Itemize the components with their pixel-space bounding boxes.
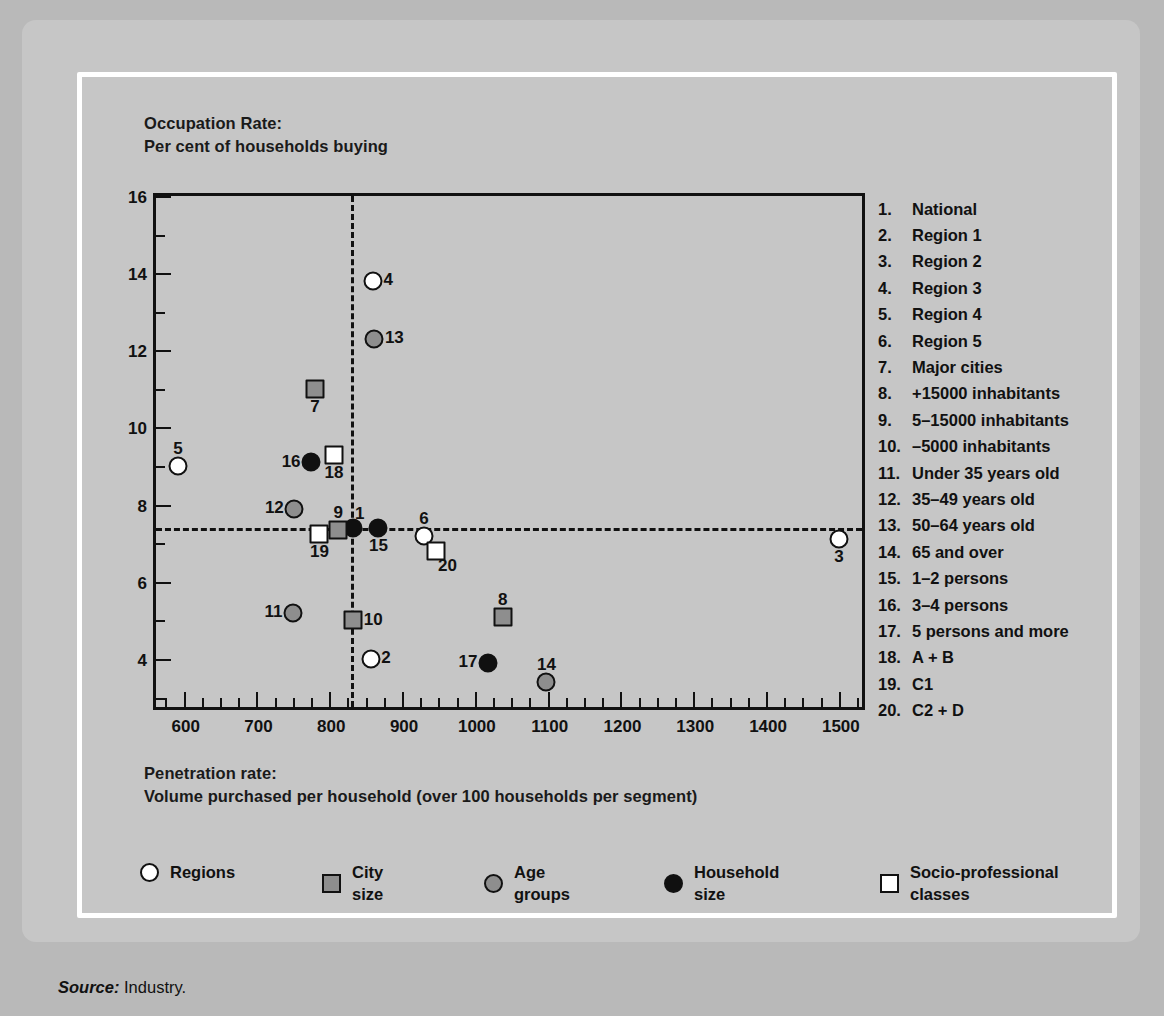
data-point-7[interactable]: 7 [305,379,324,398]
legend-item-city-size[interactable]: City size [322,862,383,906]
marker-circle-white [363,271,382,290]
key-list-item: 20.C2 + D [878,697,1069,723]
data-point-2[interactable]: 2 [361,649,380,668]
x-tick-minor [857,698,859,707]
key-item-label: 1–2 persons [912,569,1008,588]
x-tick-major: 800 [329,692,331,707]
data-point-5[interactable]: 5 [168,457,187,476]
x-tick-minor [311,698,313,707]
legend-item-household-size[interactable]: Household size [664,862,779,906]
x-tick-minor [730,698,732,707]
data-point-17[interactable]: 17 [478,653,497,672]
marker-circle-gray [537,673,556,692]
legend-label: Socio-professional classes [910,862,1059,906]
key-list-item: 5.Region 4 [878,302,1069,328]
data-point-16[interactable]: 16 [302,453,321,472]
series-legend: RegionsCity sizeAge groupsHousehold size… [140,848,1100,918]
legend-label: Age groups [514,862,570,906]
key-list-item: 6.Region 5 [878,328,1069,354]
y-tick-minor [156,466,165,468]
key-item-number: 11. [878,464,912,483]
marker-circle-black [302,453,321,472]
data-point-10[interactable]: 10 [344,611,363,630]
x-tick-minor [457,698,459,707]
key-item-number: 20. [878,701,912,720]
x-tick-minor [366,698,368,707]
x-tick-minor [220,698,222,707]
data-point-label: 19 [310,541,329,561]
y-tick-major: 8 [156,505,171,507]
x-tick-label: 800 [317,717,345,737]
x-tick-minor [584,698,586,707]
key-item-label: 5–15000 inhabitants [912,411,1069,430]
x-tick-major: 1000 [475,692,477,707]
data-point-label: 9 [333,502,342,522]
data-point-4[interactable]: 4 [363,271,382,290]
key-list-item: 9.5–15000 inhabitants [878,407,1069,433]
y-tick-minor [156,620,165,622]
key-list-item: 11.Under 35 years old [878,460,1069,486]
legend-item-socio-classes[interactable]: Socio-professional classes [880,862,1059,906]
x-tick-label: 1300 [676,717,714,737]
data-point-label: 14 [537,655,556,675]
data-point-8[interactable]: 8 [493,607,512,626]
x-tick-label: 1000 [458,717,496,737]
data-point-label: 1 [355,503,364,523]
x-tick-minor [566,698,568,707]
x-tick-major: 1400 [766,692,768,707]
x-tick-major: 900 [402,692,404,707]
key-item-number: 3. [878,252,912,271]
key-item-number: 1. [878,200,912,219]
marker-square-gray [344,611,363,630]
data-point-12[interactable]: 12 [285,499,304,518]
x-tick-minor [420,698,422,707]
y-tick-label: 4 [138,651,147,671]
x-tick-label: 1500 [822,717,860,737]
data-point-20[interactable]: 20 [426,541,445,560]
key-item-label: Region 2 [912,252,982,271]
marker-circle-gray [285,499,304,518]
x-tick-minor [748,698,750,707]
x-tick-minor [711,698,713,707]
x-tick-label: 1400 [749,717,787,737]
x-axis-title: Penetration rate: Volume purchased per h… [144,762,697,809]
x-tick-major: 1200 [620,692,622,707]
key-item-number: 12. [878,490,912,509]
key-item-number: 5. [878,305,912,324]
key-item-label: National [912,200,977,219]
key-item-label: Major cities [912,358,1003,377]
figure-panel: Occupation Rate: Per cent of households … [22,20,1140,942]
key-item-number: 9. [878,411,912,430]
data-point-3[interactable]: 3 [829,530,848,549]
data-point-18[interactable]: 18 [324,445,343,464]
data-point-label: 15 [369,535,388,555]
legend-marker-circle-black [664,874,683,893]
data-point-9[interactable]: 9 [329,520,348,539]
key-list-item: 17.5 persons and more [878,618,1069,644]
x-tick-minor [275,698,277,707]
legend-item-age-groups[interactable]: Age groups [484,862,570,906]
y-tick-minor [156,389,165,391]
key-item-label: +15000 inhabitants [912,384,1060,403]
legend-item-regions[interactable]: Regions [140,862,235,884]
data-point-13[interactable]: 13 [365,329,384,348]
key-item-label: Under 35 years old [912,464,1060,483]
key-list-item: 10.–5000 inhabitants [878,434,1069,460]
key-item-number: 13. [878,516,912,535]
legend-label: Regions [170,862,235,884]
data-point-label: 12 [265,498,284,518]
data-point-19[interactable]: 19 [310,524,329,543]
data-point-11[interactable]: 11 [283,603,302,622]
y-axis-title: Occupation Rate: Per cent of households … [144,112,388,159]
key-list-item: 8.+15000 inhabitants [878,381,1069,407]
key-item-number: 2. [878,226,912,245]
marker-circle-white [168,457,187,476]
data-point-14[interactable]: 14 [537,673,556,692]
key-item-label: Region 1 [912,226,982,245]
data-point-15[interactable]: 15 [369,518,388,537]
data-point-label: 20 [438,555,457,575]
x-tick-minor [438,698,440,707]
key-item-number: 7. [878,358,912,377]
key-list-item: 15.1–2 persons [878,565,1069,591]
marker-square-gray [493,607,512,626]
